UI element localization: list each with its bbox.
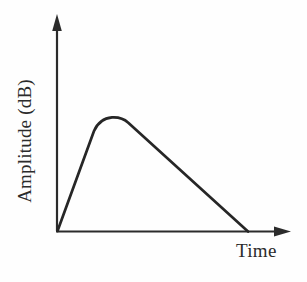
y-axis-label: Amplitude (dB) xyxy=(0,0,50,282)
x-axis-arrowhead-icon xyxy=(274,227,291,237)
y-axis-arrowhead-icon xyxy=(52,14,62,31)
amplitude-envelope-figure: Amplitude (dB) Time xyxy=(0,0,307,282)
x-axis-label-text: Time xyxy=(236,240,277,262)
envelope-curve xyxy=(58,117,249,231)
y-axis-label-text: Amplitude (dB) xyxy=(14,79,36,203)
